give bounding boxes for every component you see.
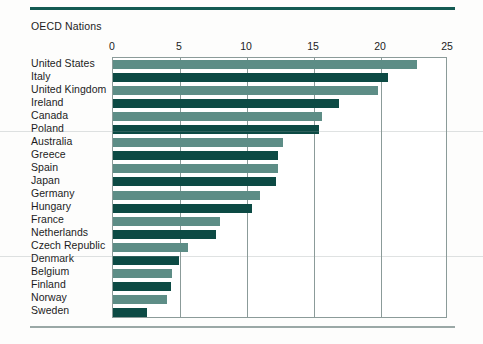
bar [113, 308, 147, 317]
bar [113, 60, 417, 69]
bar [113, 138, 283, 147]
x-tick-label: 10 [240, 40, 252, 52]
x-tick-label: 25 [441, 40, 453, 52]
category-label: Czech Republic [31, 240, 105, 251]
category-label: United Kingdom [31, 84, 106, 95]
category-label: Norway [31, 292, 67, 303]
page-title: OECD Nations [31, 20, 102, 32]
bar [113, 73, 388, 82]
top-rule [30, 7, 455, 10]
bar [113, 269, 172, 278]
category-label: Belgium [31, 266, 69, 277]
category-label: Greece [31, 149, 66, 160]
x-tick-label: 5 [176, 40, 182, 52]
category-label: France [31, 214, 64, 225]
category-label: Italy [31, 71, 51, 82]
bottom-rule [30, 326, 455, 328]
bar [113, 191, 260, 200]
bar [113, 295, 167, 304]
bar [113, 177, 276, 186]
plot-area [112, 57, 447, 318]
gridline [180, 58, 181, 317]
bar [113, 282, 171, 291]
bar [113, 112, 322, 121]
bar [113, 256, 179, 265]
gridline [314, 58, 315, 317]
category-label: Netherlands [31, 227, 88, 238]
bar [113, 151, 278, 160]
category-label: Finland [31, 279, 66, 290]
gridline [381, 58, 382, 317]
category-label: Germany [31, 188, 75, 199]
category-label: Denmark [31, 253, 74, 264]
x-tick-label: 15 [307, 40, 319, 52]
bar [113, 99, 339, 108]
bar [113, 164, 278, 173]
chart-figure: OECD Nations 0510152025 United StatesIta… [0, 0, 483, 344]
category-label: Hungary [31, 201, 71, 212]
bar [113, 125, 319, 134]
bar [113, 230, 216, 239]
category-label: Ireland [31, 97, 63, 108]
category-label: Sweden [31, 305, 69, 316]
category-labels: United StatesItalyUnited KingdomIrelandC… [0, 57, 110, 318]
x-axis-tick-labels: 0510152025 [0, 40, 483, 54]
category-label: United States [31, 58, 95, 69]
category-label: Spain [31, 162, 58, 173]
x-tick-label: 20 [374, 40, 386, 52]
category-label: Poland [31, 123, 64, 134]
category-label: Japan [31, 175, 60, 186]
bar [113, 243, 188, 252]
bar [113, 217, 220, 226]
bar [113, 204, 252, 213]
category-label: Australia [31, 136, 72, 147]
category-label: Canada [31, 110, 68, 121]
bar [113, 86, 378, 95]
x-tick-label: 0 [109, 40, 115, 52]
gridline [247, 58, 248, 317]
